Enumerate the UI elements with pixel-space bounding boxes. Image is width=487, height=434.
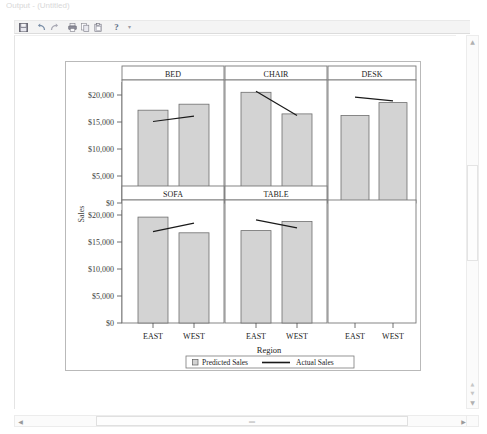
panel-title-desk: DESK [362, 70, 383, 79]
bar-sofa-east [138, 217, 168, 323]
window-caption: Output - (Untitled) [6, 0, 426, 11]
x-tick-label: EAST [246, 332, 266, 341]
floppy-disk-icon [19, 23, 28, 32]
toolbar: ? ▾ [14, 20, 470, 34]
vertical-scroll-track[interactable] [467, 47, 478, 379]
y-tick-label: $10,000 [88, 145, 114, 154]
horizontal-scroll-track[interactable]: ▬ [26, 416, 458, 426]
scroll-left-button[interactable]: ◀ [15, 416, 26, 426]
scroll-page-up-button[interactable]: ▲ [467, 379, 478, 388]
panel-empty [328, 200, 416, 323]
copy-icon [81, 23, 90, 32]
scroll-down-button[interactable]: ▼ [467, 397, 478, 408]
more-button[interactable]: ▾ [124, 22, 135, 33]
bar-sofa-west [179, 233, 209, 323]
triangle-left-icon: ◀ [18, 418, 23, 425]
sales-panel-chart: $20,000 $15,000 $10,000 $5,000 $0 $20,00… [66, 62, 420, 370]
print-button[interactable] [67, 22, 78, 33]
bar-table-east [241, 231, 271, 323]
x-axis-ticks [153, 323, 393, 328]
chevron-down-icon: ▾ [128, 24, 131, 30]
scrollbar-corner [466, 415, 479, 427]
undo-arrow-icon [37, 23, 46, 32]
scroll-page-down-button[interactable]: ▼ [467, 388, 478, 397]
scroll-up-button[interactable]: ▲ [467, 36, 478, 47]
y-tick-label: $20,000 [88, 211, 114, 220]
undo-button[interactable] [36, 22, 47, 33]
y-tick-label: $5,000 [92, 172, 114, 181]
y-axis-ticks [117, 95, 122, 323]
y-tick-label: $5,000 [92, 292, 114, 301]
panel-table: TABLE [225, 186, 327, 323]
legend-label-predicted: Predicted Sales [202, 358, 248, 367]
panel-title-chair: CHAIR [264, 70, 290, 79]
x-axis-tick-labels: EAST WEST EAST WEST EAST WEST [143, 332, 404, 341]
x-tick-label: WEST [183, 332, 205, 341]
redo-arrow-icon [50, 23, 59, 32]
legend-swatch-predicted [193, 360, 199, 366]
y-tick-label: $10,000 [88, 265, 114, 274]
triangle-down-icon: ▼ [470, 399, 475, 406]
panel-title-sofa: SOFA [163, 190, 183, 199]
vertical-scrollbar[interactable]: ▲ ▲ ▼ ▼ [466, 35, 479, 409]
y-tick-label: $0 [106, 199, 114, 208]
y-tick-label: $20,000 [88, 91, 114, 100]
triangle-up-small-icon: ▲ [471, 381, 475, 387]
panel-desk: DESK [328, 66, 416, 203]
copy-button[interactable] [80, 22, 91, 33]
save-button[interactable] [18, 22, 29, 33]
panel-bed: BED [122, 66, 224, 203]
question-mark-icon: ? [114, 23, 119, 32]
panel-title-table: TABLE [263, 190, 288, 199]
help-button[interactable]: ? [111, 22, 122, 33]
panel-sofa: SOFA [122, 186, 224, 323]
x-tick-label: WEST [382, 332, 404, 341]
output-document-pane[interactable]: $20,000 $15,000 $10,000 $5,000 $0 $20,00… [14, 35, 456, 409]
panel-chair: CHAIR [225, 66, 327, 203]
vertical-scroll-thumb[interactable] [467, 165, 478, 261]
redo-button[interactable] [49, 22, 60, 33]
y-axis-tick-labels: $20,000 $15,000 $10,000 $5,000 $0 $20,00… [88, 91, 114, 328]
horizontal-scroll-thumb[interactable]: ▬ [96, 416, 408, 426]
y-tick-label: $15,000 [88, 238, 114, 247]
triangle-up-icon: ▲ [470, 38, 475, 45]
paste-button[interactable] [93, 22, 104, 33]
x-tick-label: EAST [143, 332, 163, 341]
grip-icon: ▬ [249, 418, 255, 424]
y-tick-label: $15,000 [88, 118, 114, 127]
chart-legend: Predicted Sales Actual Sales [186, 356, 354, 368]
horizontal-scrollbar[interactable]: ◀ ▬ ▶ [14, 415, 470, 427]
x-tick-label: WEST [286, 332, 308, 341]
bar-desk-east [341, 116, 369, 204]
legend-label-actual: Actual Sales [296, 358, 334, 367]
y-axis-title: Sales [77, 206, 86, 223]
y-tick-label: $0 [106, 319, 114, 328]
paste-icon [94, 23, 103, 32]
x-axis-title: Region [257, 345, 282, 355]
x-tick-label: EAST [345, 332, 365, 341]
printer-icon [68, 23, 77, 32]
graph-frame: $20,000 $15,000 $10,000 $5,000 $0 $20,00… [65, 61, 421, 371]
panel-title-bed: BED [165, 70, 181, 79]
triangle-down-small-icon: ▼ [471, 390, 475, 396]
panel-body-empty [328, 200, 416, 323]
bar-table-west [282, 221, 312, 323]
bar-desk-west [379, 103, 407, 203]
